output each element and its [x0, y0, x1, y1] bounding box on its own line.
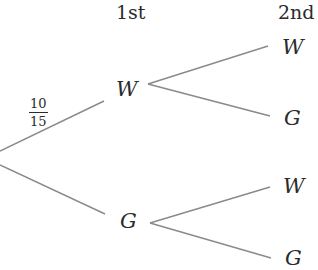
node-first-w: W — [116, 79, 138, 100]
probability-first-w: 10 15 — [29, 97, 48, 128]
fraction-numerator: 10 — [29, 97, 48, 113]
node-first-g: G — [120, 211, 137, 232]
tree-branches — [0, 0, 318, 270]
branch-w-to-w — [148, 46, 268, 84]
branch-g-to-g — [150, 223, 271, 258]
branch-w-to-g — [148, 84, 270, 116]
fraction-denominator: 15 — [30, 113, 47, 128]
node-second-ww: W — [282, 37, 304, 58]
header-second-draw: 2nd — [278, 3, 315, 22]
node-second-wg: G — [284, 108, 301, 129]
node-second-gw: W — [283, 176, 305, 197]
node-second-gg: G — [285, 248, 302, 269]
header-first-draw: 1st — [116, 3, 145, 22]
branch-root-to-g — [0, 165, 105, 214]
branch-g-to-w — [150, 187, 270, 223]
branch-root-to-w — [0, 101, 104, 151]
